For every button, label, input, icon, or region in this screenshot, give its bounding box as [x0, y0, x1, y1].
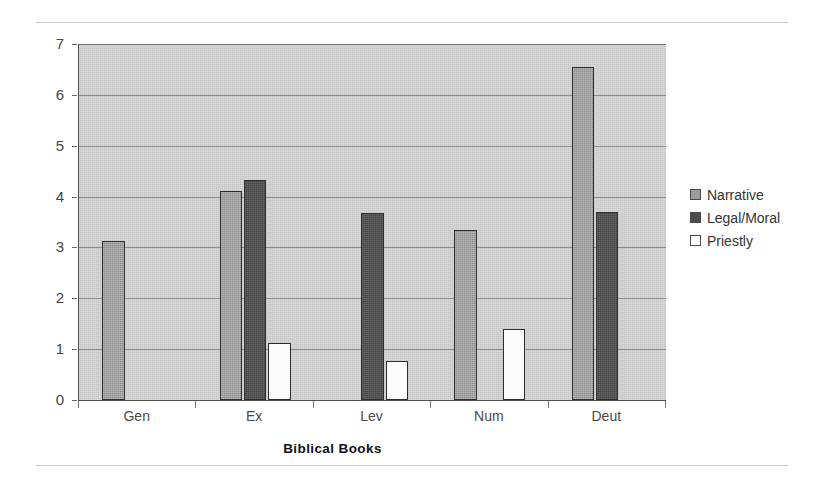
gridline — [79, 44, 666, 45]
x-axis-tick-mark — [195, 401, 196, 408]
bar-num-narrative — [454, 230, 476, 400]
bar-ex-narrative — [220, 191, 242, 400]
y-axis-tick-label: 7 — [38, 36, 64, 51]
bar-lev-priestly — [386, 361, 408, 400]
bar-ex-priestly — [268, 343, 290, 400]
legend-item-label: Priestly — [707, 234, 753, 248]
legend-swatch-icon — [690, 189, 701, 200]
y-axis-tick-label: 3 — [38, 239, 64, 254]
y-axis-tick-label: 2 — [38, 290, 64, 305]
y-axis-tick-mark — [72, 349, 77, 350]
bar-lev-legal-moral — [361, 213, 383, 400]
y-axis-tick-mark — [72, 44, 77, 45]
legend-item-label: Legal/Moral — [707, 211, 780, 225]
x-axis-category-label: Deut — [548, 409, 665, 424]
y-axis-tick-label: 1 — [38, 341, 64, 356]
y-axis-tick-label: 0 — [38, 392, 64, 407]
x-axis-category-label: Ex — [195, 409, 312, 424]
x-axis-tick-mark — [78, 401, 79, 408]
bar-num-priestly — [503, 329, 525, 400]
x-axis-tick-mark — [430, 401, 431, 408]
x-axis-tick-mark — [313, 401, 314, 408]
y-axis-tick-label: 6 — [38, 87, 64, 102]
y-axis-tick-label: 4 — [38, 189, 64, 204]
chart-legend: NarrativeLegal/MoralPriestly — [690, 183, 810, 252]
x-axis-category-label: Gen — [78, 409, 195, 424]
y-axis-tick-mark — [72, 247, 77, 248]
x-axis-tick-mark — [548, 401, 549, 408]
chart-page: Expansions per chapter 01234567 GenExLev… — [0, 0, 824, 483]
plot-area — [78, 44, 666, 401]
bar-gen-narrative — [102, 241, 124, 400]
legend-swatch-icon — [690, 212, 701, 223]
legend-item-priestly: Priestly — [690, 229, 810, 252]
y-axis-tick-mark — [72, 298, 77, 299]
bar-deut-narrative — [572, 67, 594, 400]
y-axis-tick-mark — [72, 95, 77, 96]
x-axis-category-label: Lev — [313, 409, 430, 424]
legend-item-legal: Legal/Moral — [690, 206, 810, 229]
x-axis-tick-mark — [665, 401, 666, 408]
legend-item-label: Narrative — [707, 188, 764, 202]
bar-chart: Expansions per chapter 01234567 GenExLev… — [0, 0, 824, 483]
legend-item-narrative: Narrative — [690, 183, 810, 206]
x-axis-category-label: Num — [430, 409, 547, 424]
bar-ex-legal-moral — [244, 180, 266, 400]
bar-deut-legal-moral — [596, 212, 618, 400]
y-axis-tick-mark — [72, 400, 77, 401]
y-axis-tick-label: 5 — [38, 138, 64, 153]
legend-swatch-icon — [690, 235, 701, 246]
y-axis-tick-mark — [72, 146, 77, 147]
x-axis-title: Biblical Books — [0, 441, 665, 456]
y-axis-tick-mark — [72, 197, 77, 198]
